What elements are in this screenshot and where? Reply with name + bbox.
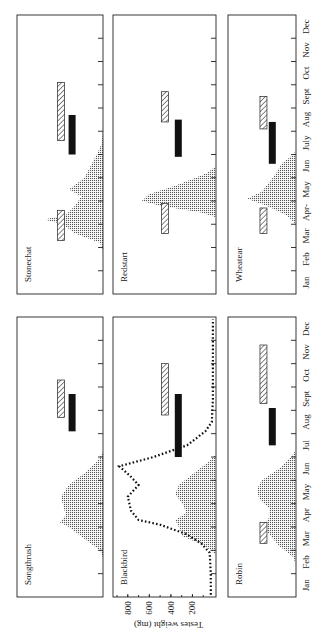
month-label: Jan	[301, 579, 311, 591]
moult-bar	[69, 394, 76, 431]
panel-songthrush: Songthrush	[17, 317, 103, 597]
month-label: Dec	[301, 19, 311, 33]
migration-bar	[161, 364, 168, 415]
panel-grid: StonechatRedstartWheatearSongthrushBlack…	[17, 15, 296, 597]
month-axes: JanFebMarApr‐MayJunJulyAugSeptOctNovDecJ…	[301, 19, 311, 591]
month-label: Jan	[301, 276, 311, 288]
migration-bar	[57, 210, 64, 240]
month-label: Aug	[301, 414, 311, 430]
month-label: Jun	[301, 159, 311, 172]
migration-bar	[260, 208, 267, 234]
month-label: Aug	[301, 111, 311, 127]
moult-bar	[69, 115, 76, 155]
month-label: May	[301, 181, 311, 198]
species-label: Stonechat	[23, 246, 33, 282]
species-label: Songthrush	[23, 543, 33, 585]
testes-tick-label: 600	[144, 601, 154, 615]
month-label: Nov	[301, 42, 311, 58]
testes-weight-axis: 800600400200Testes weight (mg)	[117, 594, 203, 630]
migration-bar	[161, 92, 168, 122]
species-label: Blackbird	[119, 549, 129, 585]
month-label: May	[301, 483, 311, 500]
breeding-distribution	[60, 452, 103, 557]
moult-bar	[175, 120, 182, 157]
panel-wheatear: Wheatear	[228, 15, 296, 294]
breeding-distribution	[257, 450, 296, 567]
month-label: July	[301, 135, 311, 151]
species-label: Robin	[234, 562, 244, 585]
panel-redstart: Redstart	[113, 15, 216, 294]
migration-bar	[260, 522, 267, 543]
panel-stonechat: Stonechat	[17, 15, 103, 294]
month-label: Oct	[301, 368, 311, 381]
species-label: Redstart	[119, 252, 129, 282]
migration-bar	[260, 96, 267, 129]
panel-blackbird: Blackbird	[113, 317, 216, 597]
migration-bar	[260, 345, 267, 403]
month-label: Mar	[301, 531, 311, 546]
panel-robin: Robin	[228, 317, 296, 597]
month-label: Oct	[301, 66, 311, 79]
month-label: Feb	[301, 555, 311, 569]
moult-bar	[269, 408, 276, 445]
month-label: Jul	[301, 440, 311, 451]
migration-bar	[57, 82, 64, 140]
month-label: Apr‐	[301, 204, 311, 221]
month-label: Nov	[301, 344, 311, 360]
breeding-moult-migration-chart: StonechatRedstartWheatearSongthrushBlack…	[0, 0, 324, 644]
migration-bar	[161, 203, 168, 233]
testes-tick-label: 400	[166, 601, 176, 615]
month-label: Feb	[301, 252, 311, 266]
testes-axis-label: Testes weight (mg)	[134, 620, 203, 630]
testes-weight-line	[119, 319, 213, 594]
month-label: Apr	[301, 508, 311, 522]
testes-tick-label: 800	[123, 601, 133, 615]
month-label: Jun	[301, 462, 311, 475]
testes-tick-label: 200	[187, 601, 197, 615]
month-label: Mar	[301, 228, 311, 243]
month-label: Sept	[301, 88, 311, 105]
migration-bar	[57, 380, 64, 417]
month-label: Sept	[301, 390, 311, 407]
moult-bar	[269, 122, 276, 164]
breeding-distribution	[142, 166, 216, 217]
species-label: Wheatear	[234, 248, 244, 282]
month-label: Dec	[301, 321, 311, 336]
